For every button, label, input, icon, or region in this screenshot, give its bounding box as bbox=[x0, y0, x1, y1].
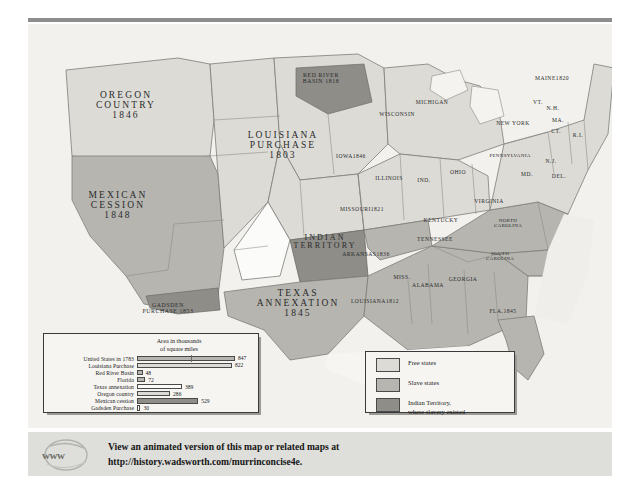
chart-bar-row: Florida72 bbox=[44, 376, 258, 383]
label-state-ma: MA. bbox=[530, 118, 586, 124]
state-name: IOWA bbox=[336, 153, 353, 159]
legend-item-slave-states: Slave states bbox=[376, 378, 514, 392]
label-state-north-carolina: NORTH CAROLINA bbox=[480, 218, 536, 229]
chart-bar-value: 72 bbox=[148, 377, 154, 383]
chart-bar bbox=[137, 363, 232, 368]
label-state-louisiana: LOUISIANA1812 bbox=[347, 299, 403, 305]
label-state-tennessee: TENNESSEE bbox=[407, 237, 463, 243]
chart-bar-value: 389 bbox=[185, 384, 193, 390]
chart-bar-label: Red River Basin bbox=[44, 370, 137, 376]
chart-bar-track: 389 bbox=[137, 383, 258, 390]
top-divider-rule bbox=[28, 18, 612, 22]
state-name: N.H. bbox=[547, 105, 560, 111]
state-year: 1846 bbox=[353, 153, 366, 159]
chart-bar-row: Red River Basin48 bbox=[44, 369, 258, 376]
footer-banner: www View an animated version of this map… bbox=[28, 432, 612, 476]
state-name: ARKANSAS bbox=[342, 251, 376, 257]
state-name: WISCONSIN bbox=[379, 111, 415, 117]
chart-bar-value: 48 bbox=[146, 370, 152, 376]
label-texas-annexation-name: TEXAS ANNEXATION bbox=[257, 288, 340, 308]
chart-bar-value: 529 bbox=[201, 398, 209, 404]
chart-bar bbox=[137, 370, 143, 375]
label-state-south-carolina: SOUTH CAROLINA bbox=[472, 251, 528, 262]
label-indian-territory: INDIAN TERRITORY bbox=[278, 234, 372, 251]
chart-bar-row: Oregon country286 bbox=[44, 390, 258, 397]
label-state-maine: MAINE1820 bbox=[524, 76, 580, 82]
chart-bar-label: Texas annexation bbox=[44, 384, 137, 390]
state-name: VIRGINIA bbox=[474, 198, 503, 204]
state-name: KENTUCKY bbox=[424, 217, 459, 223]
chart-bar bbox=[137, 398, 198, 403]
footer-line-2[interactable]: http://history.wadsworth.com/murrinconci… bbox=[108, 455, 339, 470]
chart-bar-track: 822 bbox=[137, 362, 258, 369]
chart-bar-row: Mexican cession529 bbox=[44, 398, 258, 405]
chart-bar bbox=[137, 384, 182, 389]
label-indian-territory-name: INDIAN TERRITORY bbox=[293, 233, 356, 250]
area-bar-chart: Area in thousands of square miles United… bbox=[43, 333, 259, 413]
state-name: TENNESSEE bbox=[417, 236, 453, 242]
legend-swatch-free-states bbox=[376, 358, 400, 372]
label-state-kentucky: KENTUCKY bbox=[413, 218, 469, 224]
label-louisiana-purchase: LOUISIANA PURCHASE 1803 bbox=[228, 130, 338, 160]
chart-bar-track: 286 bbox=[137, 390, 258, 397]
state-name: MICHIGAN bbox=[416, 99, 449, 105]
label-red-river-basin-year: 1818 bbox=[325, 78, 339, 84]
label-state-georgia: GEORGIA bbox=[435, 277, 491, 283]
state-name: PENNSYLVANIA bbox=[489, 153, 530, 158]
label-state-michigan: MICHIGAN bbox=[404, 100, 460, 106]
chart-bar-row: United States in 1783847 bbox=[44, 355, 258, 362]
label-state-virginia: VIRGINIA bbox=[461, 199, 517, 205]
label-oregon-country: OREGON COUNTRY 1846 bbox=[80, 90, 172, 120]
chart-bar bbox=[137, 356, 235, 361]
state-name: NORTH CAROLINA bbox=[494, 218, 522, 228]
chart-bar-value: 822 bbox=[235, 362, 243, 368]
chart-bar-track: 847 bbox=[137, 355, 258, 362]
state-name: MISS. bbox=[394, 274, 411, 280]
legend-label-indian-territory: Indian Territory, where slavery existed bbox=[408, 398, 465, 416]
region-mexican-cession bbox=[72, 156, 224, 310]
state-name: MAINE bbox=[535, 75, 556, 81]
footer-text: View an animated version of this map or … bbox=[108, 440, 339, 470]
chart-rows: United States in 1783847Louisiana Purcha… bbox=[44, 355, 258, 412]
chart-bar-value: 30 bbox=[143, 405, 149, 411]
chart-bar-label: Florida bbox=[44, 377, 137, 383]
label-state-miss: MISS. bbox=[374, 275, 430, 281]
chart-bar-track: 529 bbox=[137, 398, 258, 405]
chart-bar bbox=[137, 391, 170, 396]
footer-line-1: View an animated version of this map or … bbox=[108, 440, 339, 455]
state-name: FLA. bbox=[489, 308, 503, 314]
label-state-n-h: N.H. bbox=[525, 106, 581, 112]
legend-item-indian-territory: Indian Territory, where slavery existed bbox=[376, 398, 514, 416]
map-legend: Free states Slave states Indian Territor… bbox=[365, 351, 515, 413]
state-name: VT. bbox=[533, 99, 543, 105]
label-mexican-cession: MEXICAN CESSION 1848 bbox=[72, 190, 164, 220]
state-name: LOUISIANA bbox=[351, 298, 386, 304]
chart-bar-row: Gadsden Purchase30 bbox=[44, 405, 258, 412]
label-state-del: DEL. bbox=[531, 174, 587, 180]
state-name: GEORGIA bbox=[449, 276, 478, 282]
map-page: OREGON COUNTRY 1846 MEXICAN CESSION 1848… bbox=[0, 0, 640, 481]
chart-bar bbox=[137, 377, 145, 382]
state-name: SOUTH CAROLINA bbox=[486, 251, 514, 261]
state-name: OHIO bbox=[450, 169, 466, 175]
state-name: MA. bbox=[552, 117, 564, 123]
label-gadsden-purchase-year: 1853 bbox=[180, 308, 194, 314]
label-state-wisconsin: WISCONSIN bbox=[369, 112, 425, 118]
chart-bar-divider bbox=[191, 355, 192, 362]
chart-bar-label: Mexican cession bbox=[44, 398, 137, 404]
label-oregon-country-name: OREGON COUNTRY bbox=[96, 90, 156, 110]
label-state-alabama: ALABAMA bbox=[400, 283, 456, 289]
state-name: IND. bbox=[417, 177, 430, 183]
label-mexican-cession-year: 1848 bbox=[72, 210, 164, 220]
label-red-river-basin: RED RIVER BASIN 1818 bbox=[290, 72, 352, 84]
label-mexican-cession-name: MEXICAN CESSION bbox=[88, 190, 147, 210]
label-louisiana-purchase-name: LOUISIANA PURCHASE bbox=[248, 130, 319, 150]
label-state-n-j: N.J. bbox=[523, 159, 579, 165]
label-state-r-i: R.I. bbox=[550, 133, 606, 139]
label-state-iowa: IOWA1846 bbox=[323, 154, 379, 160]
label-state-fla: FLA.1845 bbox=[475, 309, 531, 315]
state-name: NEW YORK bbox=[496, 120, 530, 126]
www-label: www bbox=[42, 449, 64, 461]
chart-bar-label: Oregon country bbox=[44, 391, 137, 397]
label-gadsden-purchase: GADSDEN PURCHASE 1853 bbox=[132, 302, 204, 314]
